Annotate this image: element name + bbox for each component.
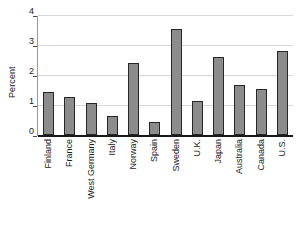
bar-chart-figure: Percent 01234 FinlandFranceWest GermanyI… [0, 0, 300, 226]
x-tick-label: Japan [213, 139, 224, 164]
bar [234, 85, 245, 135]
y-tick-mark [33, 46, 37, 47]
y-tick-label: 3 [18, 37, 34, 46]
bar [64, 97, 75, 135]
x-tick-label: U.K. [192, 139, 203, 157]
x-tick-label: Norway [128, 139, 139, 170]
bar [128, 63, 139, 135]
x-tick-label: U.S. [277, 139, 288, 157]
bars-group [38, 16, 293, 135]
bar [149, 122, 160, 135]
bar [256, 89, 267, 136]
x-tick-label: West Germany [86, 139, 97, 199]
y-tick-mark [33, 136, 37, 137]
x-tick-label-group: FinlandFranceWest GermanyItalyNorwaySpai… [38, 139, 293, 223]
bar [171, 29, 182, 136]
y-tick-label: 4 [18, 7, 34, 16]
y-tick-mark [33, 16, 37, 17]
x-tick-label: Finland [43, 139, 54, 169]
x-axis-baseline [38, 135, 293, 137]
bar [43, 92, 54, 136]
x-tick-label: Canada [256, 139, 267, 171]
x-tick-label: Italy [107, 139, 118, 156]
y-tick-label: 0 [18, 127, 34, 136]
bar [277, 51, 288, 135]
x-tick-label: France [64, 139, 75, 167]
x-tick-label: Australia [234, 139, 245, 174]
x-tick-label: Sweden [171, 139, 182, 172]
y-tick-mark [33, 76, 37, 77]
bar [213, 57, 224, 135]
y-tick-label: 1 [18, 97, 34, 106]
y-tick-mark [33, 106, 37, 107]
bar [86, 103, 97, 135]
y-tick-label-group: 01234 [15, 16, 34, 136]
x-tick-label: Spain [149, 139, 160, 162]
bar [107, 116, 118, 135]
bar [192, 101, 203, 135]
y-tick-label: 2 [18, 67, 34, 76]
